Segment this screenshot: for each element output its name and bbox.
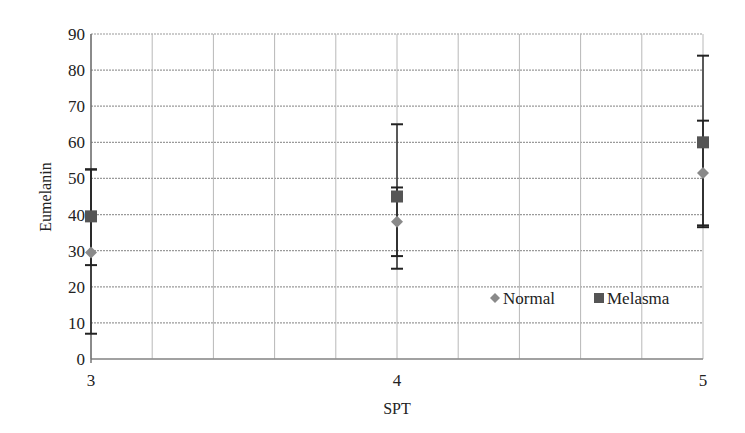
normal-diamond-marker (697, 167, 709, 179)
y-axis-label: Eumelanin (37, 162, 54, 231)
normal-diamond-marker (85, 246, 97, 258)
y-tick-label: 10 (68, 314, 85, 333)
x-tick-label: 3 (87, 371, 96, 390)
y-tick-label: 80 (68, 61, 85, 80)
x-axis-ticks: 345 (87, 371, 708, 390)
y-tick-label: 0 (77, 350, 86, 369)
legend-label-normal: Normal (503, 289, 555, 308)
x-tick-label: 5 (699, 371, 708, 390)
normal-diamond-marker (391, 216, 403, 228)
legend: Normal Melasma (490, 289, 670, 308)
y-tick-label: 90 (68, 25, 85, 44)
melasma-square-marker (85, 210, 97, 222)
melasma-square-marker (391, 191, 403, 203)
legend-square-icon (594, 293, 604, 303)
y-axis-ticks: 0102030405060708090 (68, 25, 85, 369)
x-tick-label: 4 (393, 371, 402, 390)
y-tick-label: 40 (68, 206, 85, 225)
y-tick-label: 20 (68, 278, 85, 297)
y-tick-label: 30 (68, 242, 85, 261)
legend-label-melasma: Melasma (607, 289, 670, 308)
y-tick-label: 60 (68, 133, 85, 152)
y-tick-label: 50 (68, 169, 85, 188)
x-axis-label: SPT (383, 400, 411, 417)
chart: 0102030405060708090 345 SPT Eumelanin No… (0, 0, 745, 433)
legend-diamond-icon (490, 293, 500, 303)
melasma-square-marker (697, 136, 709, 148)
y-tick-label: 70 (68, 97, 85, 116)
